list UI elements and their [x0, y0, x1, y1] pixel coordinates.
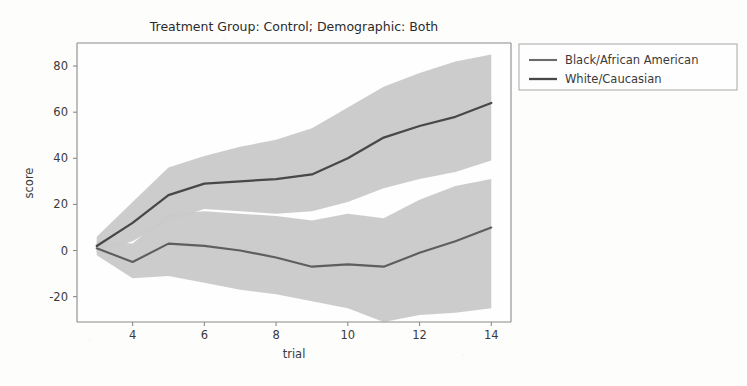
legend-label-white-caucasian: White/Caucasian	[565, 72, 662, 86]
x-tick-label: 10	[340, 328, 355, 342]
legend-label-black-african-american: Black/African American	[565, 53, 698, 67]
legend: Black/African American White/Caucasian	[519, 44, 737, 90]
x-tick-label: 14	[484, 328, 499, 342]
chart-figure: -20020406080 468101214 score trial Treat…	[0, 0, 747, 386]
x-tick-label: 6	[201, 328, 208, 342]
y-tick-labels: -20020406080	[49, 59, 68, 304]
y-tick-label: 60	[53, 105, 68, 119]
y-tick-label: 80	[53, 59, 68, 73]
y-tick-label: 20	[53, 197, 68, 211]
y-tick-label: 0	[61, 244, 68, 258]
x-tick-label: 4	[129, 328, 136, 342]
line-chart-svg: -20020406080 468101214 score trial Treat…	[0, 0, 747, 386]
x-tick-label: 12	[412, 328, 427, 342]
y-tick-label: 40	[53, 151, 68, 165]
chart-title: Treatment Group: Control; Demographic: B…	[149, 19, 439, 34]
y-axis-label: score	[22, 168, 36, 199]
x-tick-label: 8	[272, 328, 279, 342]
x-axis-label: trial	[283, 347, 306, 361]
x-tick-labels: 468101214	[129, 328, 499, 342]
y-tick-label: -20	[49, 290, 68, 304]
